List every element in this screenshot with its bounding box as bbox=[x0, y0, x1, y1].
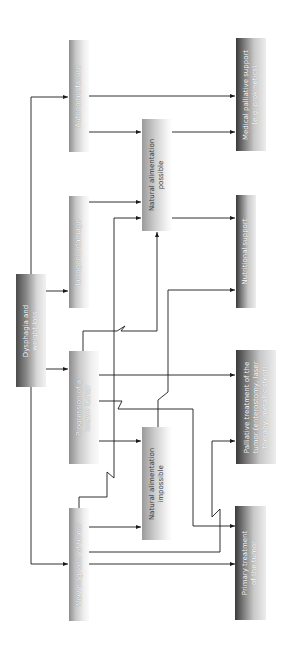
node-label: Nutritional support bbox=[242, 219, 251, 285]
node-palliative-treatment: Palliative treatment of thetumor (entero… bbox=[236, 350, 276, 464]
node-natural-alimentation-possible: Natural alimentationpossible bbox=[142, 119, 172, 231]
node-label: tumor (enterostomy, laser bbox=[252, 361, 261, 453]
node-autonomic-failure: Autonomic failure bbox=[69, 40, 89, 152]
node-medical-palliative-support: Medical palliative support(e.g. prokinet… bbox=[236, 38, 266, 151]
node-iatrogenic-damage: Iatrogenic damage bbox=[69, 196, 89, 308]
node-label: of the tumor bbox=[251, 531, 260, 595]
node-label: Palliative treatment of the bbox=[243, 361, 252, 453]
edge-progression-natpossible bbox=[83, 232, 157, 351]
node-label: Natural alimentation bbox=[148, 447, 157, 519]
node-natural-alimentation-impossible: Natural alimentationimpossible bbox=[142, 427, 172, 540]
node-label: Medical palliative support bbox=[242, 49, 251, 139]
node-label: impossible bbox=[157, 447, 166, 519]
node-label: New diagnosis of tumor bbox=[75, 523, 84, 606]
edge-dysphagia-newdiag bbox=[31, 387, 68, 564]
node-nutritional-support: Nutritional support bbox=[236, 195, 256, 308]
node-label: Natural alimentation bbox=[148, 139, 157, 211]
flowchart-diagram: Dysphagia andweight loss Autonomic failu… bbox=[0, 0, 293, 662]
node-dysphagia: Dysphagia andweight loss bbox=[16, 274, 46, 387]
edge-dysphagia-autonomic bbox=[31, 97, 68, 274]
node-label: Dysphagia and bbox=[22, 304, 31, 356]
node-label: Autonomic failure bbox=[75, 65, 84, 127]
node-label: weight loss bbox=[31, 304, 40, 356]
node-label: possible bbox=[157, 139, 166, 211]
node-progression-known-tumor: Progression of aknown tumor bbox=[69, 351, 99, 464]
node-primary-treatment: Primary treatmentof the tumor bbox=[235, 506, 266, 620]
node-label: (e.g. prokinetics) bbox=[251, 49, 260, 139]
node-label: Iatrogenic damage bbox=[75, 219, 84, 285]
node-new-diagnosis: New diagnosis of tumor bbox=[69, 508, 89, 621]
edge-natimpossible-nutritional bbox=[158, 290, 235, 427]
node-label: Primary treatment bbox=[242, 531, 251, 595]
node-label: known tumor bbox=[84, 379, 93, 435]
node-label: therapy, metallic stent) bbox=[261, 361, 270, 453]
node-label: Progression of a bbox=[75, 379, 84, 435]
